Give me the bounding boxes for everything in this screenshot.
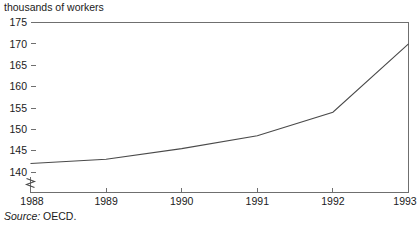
x-tick-label: 1993 [393, 195, 417, 207]
x-tick-label: 1990 [170, 195, 194, 207]
axis-frame [31, 23, 409, 193]
x-tick-label: 1989 [94, 195, 118, 207]
line-chart-plot: 175 170 165 160 155 150 145 140 1988 198… [0, 0, 417, 230]
y-tick-label: 140 [9, 166, 27, 178]
x-axis-labels: 1988 1989 1990 1991 1992 1993 [20, 195, 417, 207]
y-tick-marks [31, 23, 36, 173]
chart-figure: thousands of workers 175 170 165 160 155… [0, 0, 417, 230]
y-tick-label: 155 [9, 102, 27, 114]
x-tick-marks [31, 188, 409, 193]
source-note: Source: OECD. [4, 210, 76, 222]
y-tick-label: 170 [9, 38, 27, 50]
data-series-line [31, 44, 409, 164]
y-tick-label: 175 [9, 16, 27, 28]
y-tick-label: 145 [9, 144, 27, 156]
y-axis-labels: 175 170 165 160 155 150 145 140 [9, 16, 27, 178]
y-tick-label: 165 [9, 59, 27, 71]
y-tick-label: 150 [9, 123, 27, 135]
source-value: OECD. [43, 210, 76, 222]
x-tick-label: 1992 [321, 195, 345, 207]
source-label: Source: [4, 210, 40, 222]
axis-break-icon [27, 179, 35, 188]
x-tick-label: 1991 [246, 195, 270, 207]
y-tick-label: 160 [9, 80, 27, 92]
x-tick-label: 1988 [20, 195, 44, 207]
